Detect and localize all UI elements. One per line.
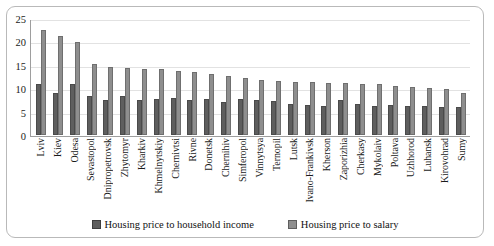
legend-item-salary: Housing price to salary — [288, 219, 399, 230]
bar-salary — [410, 87, 415, 135]
bar-salary — [293, 82, 298, 135]
bar-series-group — [32, 20, 470, 135]
x-axis-label: Sumy — [453, 138, 470, 216]
x-axis-label: Chernihiv — [217, 138, 234, 216]
plot-area — [30, 20, 470, 137]
bar-group — [452, 20, 469, 135]
bar-group — [201, 20, 218, 135]
x-axis-label: Poltava — [386, 138, 403, 216]
x-axis-label: Khmelnytskiy — [150, 138, 167, 216]
bar-salary — [461, 93, 466, 135]
x-axis-label: Chernivtsi — [167, 138, 184, 216]
x-axis-label: Lutsk — [285, 138, 302, 216]
bar-salary — [209, 74, 214, 135]
bar-group — [167, 20, 184, 135]
bar-group — [419, 20, 436, 135]
bar-group — [435, 20, 452, 135]
bar-salary — [259, 80, 264, 135]
bar-salary — [444, 89, 449, 135]
bar-group — [352, 20, 369, 135]
bar-group — [184, 20, 201, 135]
bar-group — [318, 20, 335, 135]
bar-salary — [142, 69, 147, 135]
legend-item-income: Housing price to household income — [92, 219, 254, 230]
bar-salary — [243, 78, 248, 135]
bar-salary — [276, 81, 281, 135]
bar-salary — [176, 71, 181, 135]
bar-group — [368, 20, 385, 135]
bar-group — [301, 20, 318, 135]
bar-group — [284, 20, 301, 135]
y-axis-tick: 15 — [16, 62, 27, 73]
chart-container: 0510152025 LvivKievOdesaSevastopolDnipro… — [6, 6, 484, 238]
x-axis-label: Kiev — [49, 138, 66, 216]
bar-group — [134, 20, 151, 135]
y-axis-tick: 20 — [16, 38, 27, 49]
bar-salary — [92, 64, 97, 135]
bar-salary — [427, 88, 432, 135]
y-axis-tick: 25 — [16, 15, 27, 26]
bar-group — [100, 20, 117, 135]
bar-salary — [310, 82, 315, 135]
x-axis-label: Uzhhorod — [403, 138, 420, 216]
x-axis-label: Ivano-Frankivsk — [302, 138, 319, 216]
legend-label-salary: Housing price to salary — [301, 219, 399, 230]
bar-group — [335, 20, 352, 135]
bar-group — [50, 20, 67, 135]
bar-group — [234, 20, 251, 135]
y-axis-tick: 0 — [21, 132, 26, 143]
bar-group — [33, 20, 50, 135]
y-axis-tick: 5 — [21, 108, 26, 119]
bar-salary — [75, 42, 80, 135]
bar-group — [385, 20, 402, 135]
bar-salary — [343, 83, 348, 135]
bar-group — [402, 20, 419, 135]
x-axis-label: Kharkiv — [133, 138, 150, 216]
bar-group — [117, 20, 134, 135]
bar-salary — [41, 30, 46, 135]
bar-salary — [226, 76, 231, 135]
legend-swatch-salary-icon — [288, 220, 297, 229]
x-axis-label: Mykolaiv — [369, 138, 386, 216]
x-axis-label: Donetsk — [200, 138, 217, 216]
bar-salary — [108, 67, 113, 135]
x-axis-label: Ternopil — [268, 138, 285, 216]
x-axis-label: Dnipropetrovsk — [99, 138, 116, 216]
y-axis: 0510152025 — [9, 20, 28, 137]
bar-salary — [377, 84, 382, 135]
bar-group — [268, 20, 285, 135]
bar-group — [83, 20, 100, 135]
x-axis-label: Kherson — [318, 138, 335, 216]
x-axis-label: Vinnytsya — [251, 138, 268, 216]
bar-salary — [159, 69, 164, 135]
x-axis-label: Sevastopol — [83, 138, 100, 216]
legend-label-income: Housing price to household income — [105, 219, 254, 230]
x-axis-label: Zhytomyr — [116, 138, 133, 216]
bar-group — [251, 20, 268, 135]
bar-salary — [326, 83, 331, 135]
legend-swatch-income-icon — [92, 220, 101, 229]
x-axis-label: Luhansk — [419, 138, 436, 216]
bar-group — [150, 20, 167, 135]
bar-group — [67, 20, 84, 135]
bar-salary — [192, 72, 197, 135]
bar-group — [217, 20, 234, 135]
bar-salary — [360, 84, 365, 135]
x-axis-label: Lviv — [32, 138, 49, 216]
x-axis-label: Rivne — [184, 138, 201, 216]
x-axis-label: Simferopol — [234, 138, 251, 216]
x-axis-labels: LvivKievOdesaSevastopolDnipropetrovskZhy… — [31, 138, 471, 216]
x-axis-label: Cherkasy — [352, 138, 369, 216]
plot-area-wrapper: 0510152025 — [30, 20, 470, 137]
x-axis-label: Zaporizhia — [335, 138, 352, 216]
y-axis-tick: 10 — [16, 85, 27, 96]
bar-salary — [393, 86, 398, 135]
bar-salary — [58, 36, 63, 135]
chart-legend: Housing price to household income Housin… — [7, 219, 483, 230]
x-axis-label: Kirovohrad — [436, 138, 453, 216]
bar-salary — [125, 68, 130, 135]
x-axis-label: Odesa — [66, 138, 83, 216]
